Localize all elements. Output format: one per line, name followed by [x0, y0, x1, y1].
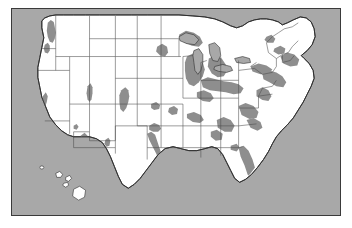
- map-frame: [11, 8, 341, 216]
- island-kauai: [40, 166, 44, 169]
- map-figure: [0, 0, 352, 228]
- us-map-svg: [12, 9, 340, 215]
